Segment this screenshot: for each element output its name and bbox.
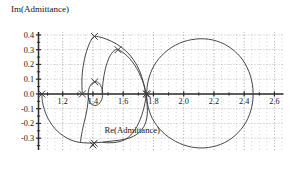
y-tick-label: 0.2 (24, 60, 34, 69)
y-tick-label: -0.1 (21, 105, 34, 114)
plot-area: 0.40.30.20.10.0-0.1-0.2-0.31.21.41.61.82… (0, 0, 299, 170)
x-tick-label: 1.4 (88, 97, 98, 106)
y-tick-label: -0.3 (21, 134, 34, 143)
tick-label-layer: 0.40.30.20.10.0-0.1-0.2-0.31.21.41.61.82… (21, 31, 280, 143)
y-tick-label: 0.1 (24, 75, 34, 84)
x-tick-label: 2.2 (209, 97, 219, 106)
x-tick-label: 2.6 (269, 97, 279, 106)
y-tick-label: -0.2 (21, 119, 34, 128)
x-tick-label: 1.6 (118, 97, 128, 106)
y-tick-label: 0.0 (24, 90, 34, 99)
x-tick-label: 2.4 (239, 97, 249, 106)
grid-layer (39, 32, 284, 150)
admittance-locus-chart: 0.40.30.20.10.0-0.1-0.2-0.31.21.41.61.82… (0, 0, 299, 170)
x-axis-label: Re(Admittance) (105, 125, 160, 135)
chart-root: Im(Admittance) 0.40.30.20.10.0-0.1-0.2-0… (0, 0, 299, 170)
y-tick-label: 0.3 (24, 46, 34, 55)
y-tick-label: 0.4 (24, 31, 34, 40)
x-tick-label: 1.8 (148, 97, 158, 106)
x-tick-label: 2.0 (179, 97, 189, 106)
x-tick-label: 1.2 (58, 97, 68, 106)
